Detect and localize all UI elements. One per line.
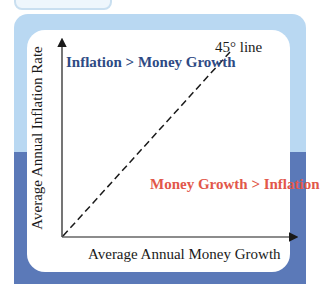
forty-five-degree-line <box>63 52 230 236</box>
region-upper-label: Inflation > Money Growth <box>66 54 236 71</box>
y-axis-label: Average Annual Inflation Rate <box>29 46 46 229</box>
region-lower-label: Money Growth > Inflation <box>150 176 320 193</box>
x-axis-label: Average Annual Money Growth <box>88 246 281 263</box>
reference-line-label: 45° line <box>215 39 262 56</box>
